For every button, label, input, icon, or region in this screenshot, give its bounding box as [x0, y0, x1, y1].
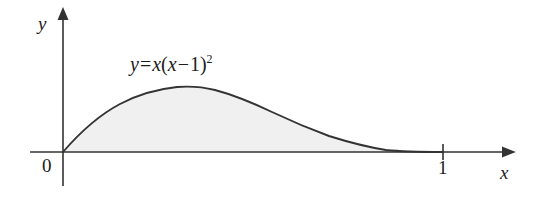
- equation-inner-variable: x: [168, 53, 177, 75]
- x-tick-one-label: 1: [438, 158, 448, 177]
- y-axis-label: y: [38, 14, 46, 33]
- x-axis-label: x: [500, 163, 508, 182]
- equation-annotation: y=x(x−1)2: [130, 54, 213, 74]
- origin-label: 0: [42, 156, 52, 175]
- equation-outer-factor: x: [152, 53, 161, 75]
- plot-canvas: [0, 0, 543, 201]
- equation-exponent: 2: [207, 52, 213, 66]
- figure-graph-cubic-area: y=x(x−1)2 y x 0 1: [0, 0, 543, 201]
- equation-minus-sign: −: [177, 53, 190, 75]
- equation-close-paren: ): [200, 53, 207, 75]
- y-axis-arrowhead: [58, 7, 69, 20]
- shaded-area-under-curve: [63, 87, 443, 152]
- equation-equals-sign: =: [139, 53, 152, 75]
- equation-open-paren: (: [161, 53, 168, 75]
- equation-lhs: y: [130, 53, 139, 75]
- equation-constant-one: 1: [190, 53, 200, 75]
- x-axis-arrowhead: [502, 147, 516, 158]
